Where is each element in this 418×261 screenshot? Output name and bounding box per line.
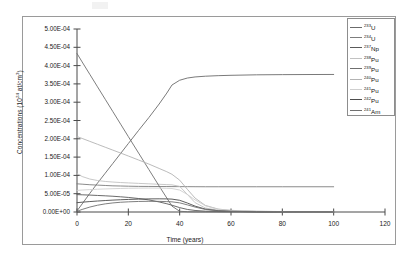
- y-axis-title: Concentrations (1024 at/cm3): [15, 57, 23, 167]
- y-axis-tick-label: 0.00E+00: [24, 208, 70, 215]
- y-axis-tick-label: 2.00E-04: [24, 135, 70, 142]
- x-axis-title: Time (years): [95, 236, 275, 243]
- legend-item-238Pu[interactable]: 238Pu: [350, 53, 395, 63]
- legend-label-238Pu: 238Pu: [364, 54, 379, 63]
- y-axis-tick-label: 4.50E-04: [24, 43, 70, 50]
- legend-swatch-237Np: [350, 47, 362, 48]
- series-line-234U: [77, 184, 334, 187]
- legend-item-241Pu[interactable]: 241Pu: [350, 84, 395, 94]
- legend-swatch-241Am: [350, 110, 362, 111]
- legend-swatch-239Pu: [350, 68, 362, 69]
- legend-swatch-233U: [350, 27, 362, 28]
- y-axis-tick-label: 1.00E-04: [24, 171, 70, 178]
- legend-label-241Am: 241Am: [364, 106, 380, 115]
- legend-label-234U: 234U: [364, 33, 375, 42]
- y-axis-title-text: Concentrations (1024 at/cm3): [16, 70, 23, 154]
- x-axis-tick-label: 40: [168, 220, 192, 227]
- y-axis-tick-label: 2.50E-04: [24, 117, 70, 124]
- x-axis-tick-label: 80: [270, 220, 294, 227]
- x-axis-tick-label: 100: [322, 220, 346, 227]
- legend-label-241Pu: 241Pu: [364, 85, 379, 94]
- y-axis-tick-label: 1.50E-04: [24, 153, 70, 160]
- legend-swatch-238Pu: [350, 58, 362, 59]
- legend-item-237Np[interactable]: 237Np: [350, 43, 395, 53]
- y-axis-tick-label: 5.00E-04: [24, 25, 70, 32]
- legend-label-237Np: 237Np: [364, 43, 379, 52]
- legend-swatch-242Pu: [350, 99, 362, 100]
- legend-swatch-240Pu: [350, 79, 362, 80]
- legend-item-234U[interactable]: 234U: [350, 32, 395, 42]
- y-axis-tick-label: 5.00E-05: [24, 190, 70, 197]
- legend-item-239Pu[interactable]: 239Pu: [350, 64, 395, 74]
- series-line-241Am: [77, 201, 334, 212]
- legend-label-240Pu: 240Pu: [364, 74, 379, 83]
- legend-item-240Pu[interactable]: 240Pu: [350, 74, 395, 84]
- series-line-233U: [77, 74, 334, 210]
- legend: 233U234U237Np238Pu239Pu240Pu241Pu242Pu24…: [347, 18, 395, 116]
- series-line-240Pu: [77, 137, 334, 212]
- legend-item-241Am[interactable]: 241Am: [350, 105, 395, 115]
- legend-swatch-234U: [350, 37, 362, 38]
- legend-label-233U: 233U: [364, 22, 375, 31]
- x-axis-tick-label: 20: [116, 220, 140, 227]
- chart-figure: 0.00E+005.00E-051.00E-041.50E-042.00E-04…: [0, 0, 418, 261]
- x-axis-tick-label: 60: [219, 220, 243, 227]
- y-axis-tick-label: 3.50E-04: [24, 80, 70, 87]
- legend-swatch-241Pu: [350, 89, 362, 90]
- y-axis-tick-label: 4.00E-04: [24, 62, 70, 69]
- y-axis-tick-label: 3.00E-04: [24, 98, 70, 105]
- legend-item-242Pu[interactable]: 242Pu: [350, 95, 395, 105]
- legend-label-242Pu: 242Pu: [364, 95, 379, 104]
- x-axis-tick-label: 0: [65, 220, 89, 227]
- legend-label-239Pu: 239Pu: [364, 64, 379, 73]
- x-axis-tick-label: 120: [373, 220, 397, 227]
- legend-item-233U[interactable]: 233U: [350, 22, 395, 32]
